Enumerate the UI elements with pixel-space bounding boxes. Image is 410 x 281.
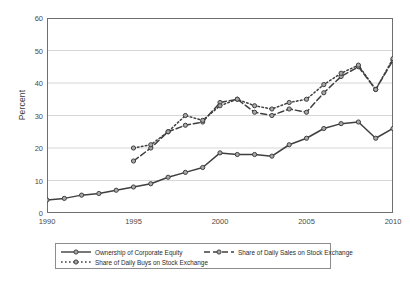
plot-area bbox=[47, 18, 393, 213]
series-2 bbox=[131, 58, 393, 163]
data-point bbox=[218, 151, 222, 155]
data-point bbox=[374, 136, 378, 140]
data-point bbox=[356, 120, 360, 124]
data-point bbox=[322, 83, 326, 87]
data-point bbox=[253, 152, 257, 156]
legend-label: Share of Daily Buys on Stock Exchange bbox=[95, 259, 208, 266]
y-tick-label: 30 bbox=[19, 111, 43, 120]
x-tick-label: 1990 bbox=[39, 217, 56, 226]
data-point bbox=[80, 193, 84, 197]
data-point bbox=[114, 188, 118, 192]
data-point bbox=[183, 123, 187, 127]
data-point bbox=[287, 107, 291, 111]
series-1 bbox=[47, 120, 393, 202]
data-point bbox=[322, 126, 326, 130]
series-line bbox=[47, 122, 393, 200]
data-point bbox=[253, 104, 257, 108]
x-tick-label: 1995 bbox=[125, 217, 142, 226]
y-tick-label: 20 bbox=[19, 144, 43, 153]
data-point bbox=[287, 100, 291, 104]
data-point bbox=[391, 126, 393, 130]
data-point bbox=[47, 198, 49, 202]
legend-key-dotted bbox=[61, 258, 91, 267]
x-tick-label: 2005 bbox=[298, 217, 315, 226]
data-point bbox=[339, 122, 343, 126]
legend-key-solid bbox=[61, 248, 91, 257]
data-point bbox=[253, 110, 257, 114]
y-tick-label: 10 bbox=[19, 176, 43, 185]
data-point bbox=[270, 154, 274, 158]
data-point bbox=[235, 152, 239, 156]
legend-label: Ownership of Corporate Equity bbox=[95, 249, 182, 256]
data-point bbox=[97, 191, 101, 195]
data-point bbox=[201, 165, 205, 169]
data-point bbox=[304, 110, 308, 114]
data-point bbox=[183, 170, 187, 174]
data-point bbox=[131, 159, 135, 163]
data-point bbox=[356, 63, 360, 67]
chart-figure: Percent 0102030405060 199019952000200520… bbox=[0, 0, 410, 281]
series-3 bbox=[131, 57, 393, 151]
data-point bbox=[339, 71, 343, 75]
data-point bbox=[131, 146, 135, 150]
y-axis-ticks: 0102030405060 bbox=[17, 0, 43, 281]
data-point bbox=[218, 104, 222, 108]
x-tick-label: 2000 bbox=[212, 217, 229, 226]
chart-legend: Ownership of Corporate EquityShare of Da… bbox=[55, 243, 331, 269]
series-line bbox=[134, 60, 394, 161]
data-point bbox=[131, 185, 135, 189]
data-point bbox=[235, 97, 239, 101]
data-point bbox=[287, 143, 291, 147]
data-point bbox=[304, 136, 308, 140]
data-point bbox=[166, 130, 170, 134]
data-point bbox=[62, 196, 66, 200]
x-axis-ticks: 19901995200020052010 bbox=[0, 217, 410, 229]
data-point bbox=[270, 107, 274, 111]
legend-key-dashed bbox=[204, 248, 234, 257]
x-tick-label: 2010 bbox=[385, 217, 402, 226]
line-chart-svg bbox=[47, 18, 393, 213]
series-line bbox=[134, 59, 394, 148]
data-point bbox=[304, 97, 308, 101]
data-point bbox=[166, 175, 170, 179]
y-tick-label: 40 bbox=[19, 79, 43, 88]
y-tick-label: 50 bbox=[19, 46, 43, 55]
data-point bbox=[201, 118, 205, 122]
data-point bbox=[391, 57, 393, 61]
data-point bbox=[183, 113, 187, 117]
data-point bbox=[322, 91, 326, 95]
data-point bbox=[149, 143, 153, 147]
legend-label: Share of Daily Sales on Stock Exchange bbox=[238, 249, 353, 256]
data-point bbox=[149, 182, 153, 186]
data-point bbox=[374, 87, 378, 91]
data-point bbox=[270, 113, 274, 117]
y-tick-label: 60 bbox=[19, 14, 43, 23]
